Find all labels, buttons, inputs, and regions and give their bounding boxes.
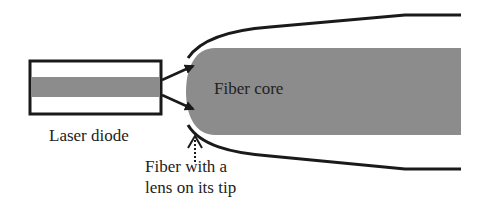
laser-diode-label: Laser diode [49,127,129,144]
lens-tip-label: Fiber with a lens on its tip [145,156,236,198]
laser-active-stripe [32,77,160,97]
laser-diode [30,61,161,114]
fiber-core-label: Fiber core [214,80,283,97]
diagram-canvas [0,0,486,203]
lens-tip-label-line1: Fiber with a [145,156,236,177]
lens-tip-label-line2: lens on its tip [145,177,236,198]
